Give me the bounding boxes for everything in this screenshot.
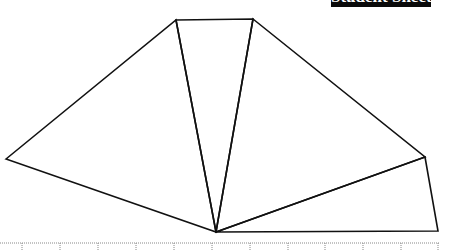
triangle-bottom-right bbox=[216, 157, 438, 232]
triangle-left bbox=[6, 20, 216, 232]
triangle-top bbox=[176, 19, 253, 232]
triangle-fan-figure bbox=[0, 0, 453, 250]
triangle-right bbox=[216, 19, 425, 232]
dotted-ruler bbox=[0, 243, 440, 250]
